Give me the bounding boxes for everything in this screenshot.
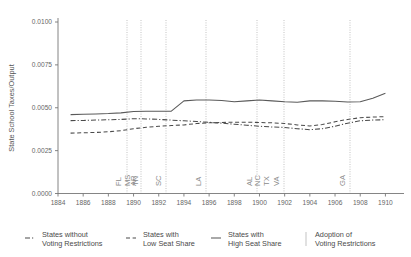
adoption-label-SC: SC — [154, 175, 163, 186]
adoption-label-AR: AR — [129, 175, 138, 186]
legend-label-legend-item-low-seat-share-line2: Low Seat Share — [143, 239, 195, 248]
x-tick-label: 1888 — [101, 199, 116, 206]
legend-label-legend-item-no-restrictions-line1: States without — [42, 230, 88, 239]
series-line-2 — [71, 117, 386, 133]
x-tick-label: 1906 — [328, 199, 343, 206]
x-tick-label: 1898 — [227, 199, 242, 206]
school-taxes-line-chart: 0.00000.00250.00500.00750.01001884188618… — [0, 0, 411, 257]
x-tick-label: 1896 — [202, 199, 217, 206]
legend-label-legend-item-high-seat-share-line1: States with — [228, 230, 264, 239]
legend-label-legend-item-no-restrictions-line2: Voting Restrictions — [42, 239, 103, 248]
y-tick-label: 0.0100 — [32, 18, 53, 25]
y-tick-label: 0.0075 — [32, 61, 53, 68]
x-tick-label: 1910 — [378, 199, 393, 206]
y-tick-label: 0.0025 — [32, 147, 53, 154]
adoption-label-LA: LA — [194, 176, 203, 186]
x-tick-label: 1894 — [177, 199, 192, 206]
series-line-0 — [71, 93, 386, 114]
legend-label-legend-item-low-seat-share-line1: States with — [143, 230, 179, 239]
y-axis-title: State School Taxes/Output — [7, 64, 16, 151]
y-tick-label: 0.0000 — [32, 190, 53, 197]
x-tick-label: 1908 — [353, 199, 368, 206]
legend-label-legend-item-adoption-line1: Adoption of — [315, 230, 353, 239]
x-tick-label: 1902 — [277, 199, 292, 206]
plot-area: 0.00000.00250.00500.00750.01001884188618… — [7, 18, 404, 248]
x-tick-label: 1886 — [76, 199, 91, 206]
series-line-1 — [71, 119, 386, 130]
adoption-label-GA: GA — [338, 174, 347, 186]
x-tick-label: 1884 — [51, 199, 66, 206]
legend-label-legend-item-adoption-line2: Voting Restrictions — [315, 239, 376, 248]
x-tick-label: 1900 — [252, 199, 267, 206]
x-tick-label: 1892 — [151, 199, 166, 206]
adoption-label-VA: VA — [272, 175, 281, 186]
x-tick-label: 1890 — [126, 199, 141, 206]
x-tick-label: 1904 — [303, 199, 318, 206]
adoption-label-TX: TX — [262, 176, 271, 186]
chart-container: 0.00000.00250.00500.00750.01001884188618… — [0, 0, 411, 257]
y-tick-label: 0.0050 — [32, 104, 53, 111]
legend-label-legend-item-high-seat-share-line2: High Seat Share — [228, 239, 282, 248]
